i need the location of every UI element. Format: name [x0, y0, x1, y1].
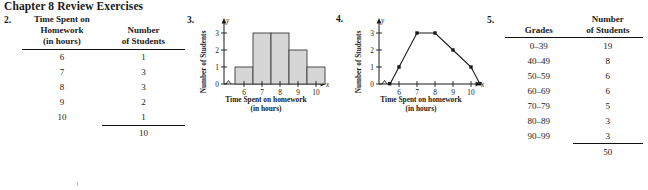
- cell-students: 19: [573, 38, 643, 53]
- exercise-number-4: 4.: [336, 14, 343, 24]
- table-row: 70–79 5: [505, 98, 643, 113]
- histogram-svg: Number of Students y x 0 1 2 3: [196, 14, 336, 98]
- x-axis-caption: Time Spent on homework (in hours): [196, 96, 336, 113]
- point-10-1: [469, 65, 472, 68]
- point-9-2: [451, 48, 454, 51]
- y-tick-0: 0: [370, 80, 374, 89]
- exercise-number-5: 5.: [487, 15, 494, 25]
- frequency-polygon-svg: Number of Students y x 0 1 2 3: [351, 14, 491, 98]
- cell-students: 1: [102, 50, 185, 65]
- cell-hours: 9: [22, 95, 102, 110]
- exercise-number-3: 3.: [187, 15, 194, 25]
- cell-students: 5: [573, 98, 643, 113]
- x-axis-caption-line2: (in hours): [196, 105, 336, 114]
- point-7-3: [415, 31, 418, 34]
- total-label-empty: [22, 126, 102, 141]
- cell-grades: 60–69: [505, 83, 573, 98]
- cell-grades: 80–89: [505, 113, 573, 128]
- histogram-chart: Number of Students y x 0 1 2 3: [196, 14, 336, 114]
- table-row: 80–89 3: [505, 113, 643, 128]
- table-header-row: Grades Number of Students: [505, 14, 643, 37]
- point-6-1: [397, 65, 400, 68]
- table-row: 60–69 6: [505, 83, 643, 98]
- point-5.5-0: [388, 82, 391, 85]
- y-tick-labels: 0 1 2 3: [215, 29, 219, 89]
- y-axis-letter: y: [380, 17, 385, 25]
- header-number-line1: Number: [127, 25, 159, 35]
- header-number-of-students: Number of Students: [573, 14, 643, 37]
- y-tick-labels: 0 1 2 3: [370, 29, 374, 89]
- cell-students: 1: [102, 110, 185, 125]
- cell-students: 6: [573, 83, 643, 98]
- frequency-polygon-markers: [388, 31, 482, 85]
- point-10.5-0: [478, 82, 481, 85]
- cell-grades: 0–39: [505, 38, 573, 53]
- table-row: 50–59 6: [505, 68, 643, 83]
- worksheet-page: Chapter 8 Review Exercises 2. Time Spent…: [0, 0, 648, 190]
- exercise-5-table-wrapper: Grades Number of Students 0–39 19: [505, 14, 643, 159]
- bar-8: [271, 33, 289, 84]
- cell-hours: 10: [22, 110, 102, 125]
- table-row: 40–49 8: [505, 53, 643, 68]
- y-axis-label: Number of Students: [354, 30, 363, 93]
- header-number-line2: of Students: [122, 36, 165, 46]
- cell-students: 3: [102, 65, 185, 80]
- cell-students: 2: [102, 95, 185, 110]
- axis-break-icon: [226, 81, 231, 85]
- y-tick-0: 0: [215, 80, 219, 89]
- page-title: Chapter 8 Review Exercises: [4, 0, 143, 12]
- histogram-bars: [235, 33, 325, 84]
- cell-hours: 7: [22, 65, 102, 80]
- cell-hours: 8: [22, 80, 102, 95]
- total-students: 50: [573, 144, 643, 159]
- header-time-spent: Time Spent on Homework (in hours): [22, 14, 102, 49]
- point-8-3: [433, 31, 436, 34]
- total-students: 10: [102, 126, 185, 141]
- header-grades: Grades: [505, 14, 573, 37]
- cell-grades: 40–49: [505, 53, 573, 68]
- table-row: 9 2: [22, 95, 185, 110]
- cell-hours: 6: [22, 50, 102, 65]
- exercise-2-table-wrapper: Time Spent on Homework (in hours) Number…: [22, 14, 185, 141]
- cell-students: 3: [573, 113, 643, 128]
- homework-frequency-table: Time Spent on Homework (in hours) Number…: [22, 14, 185, 141]
- header-time-spent-line2: Homework: [40, 25, 83, 35]
- table-row: 0–39 19: [505, 38, 643, 53]
- x-axis-caption: Time Spent on homework (in hours): [351, 96, 491, 113]
- total-row: 50: [505, 144, 643, 159]
- cell-students: 3: [102, 80, 185, 95]
- y-tick-1: 1: [215, 63, 219, 72]
- cell-grades: 50–59: [505, 68, 573, 83]
- bar-9: [289, 50, 307, 84]
- y-tick-3: 3: [370, 29, 374, 38]
- y-tick-2: 2: [370, 46, 374, 55]
- scan-artifact: [77, 182, 78, 186]
- y-tick-2: 2: [215, 46, 219, 55]
- y-axis-label: Number of Students: [199, 30, 208, 93]
- table-row: 7 3: [22, 65, 185, 80]
- cell-grades: 90–99: [505, 128, 573, 143]
- table-row: 90–99 3: [505, 128, 643, 143]
- grades-frequency-table: Grades Number of Students 0–39 19: [505, 14, 643, 159]
- frequency-polygon-chart: Number of Students y x 0 1 2 3: [351, 14, 491, 114]
- total-label-empty: [505, 144, 573, 159]
- cell-students: 6: [573, 68, 643, 83]
- frequency-polygon-line: [390, 33, 480, 84]
- x-axis-letter: x: [325, 81, 330, 89]
- x-axis-caption-line2: (in hours): [351, 105, 491, 114]
- header-number-line2: of Students: [586, 25, 629, 35]
- header-time-spent-line1: Time Spent on: [34, 14, 90, 24]
- table-row: 10 1: [22, 110, 185, 125]
- cell-students: 3: [573, 128, 643, 143]
- y-tick-3: 3: [215, 29, 219, 38]
- y-tick-1: 1: [370, 63, 374, 72]
- cell-students: 8: [573, 53, 643, 68]
- header-number-line1: Number: [592, 14, 624, 24]
- exercise-number-2: 2.: [4, 15, 11, 25]
- header-time-spent-line3: (in hours): [43, 36, 81, 46]
- total-row: 10: [22, 126, 185, 141]
- cell-grades: 70–79: [505, 98, 573, 113]
- table-row: 6 1: [22, 50, 185, 65]
- axis-break-icon: [382, 81, 387, 85]
- table-row: 8 3: [22, 80, 185, 95]
